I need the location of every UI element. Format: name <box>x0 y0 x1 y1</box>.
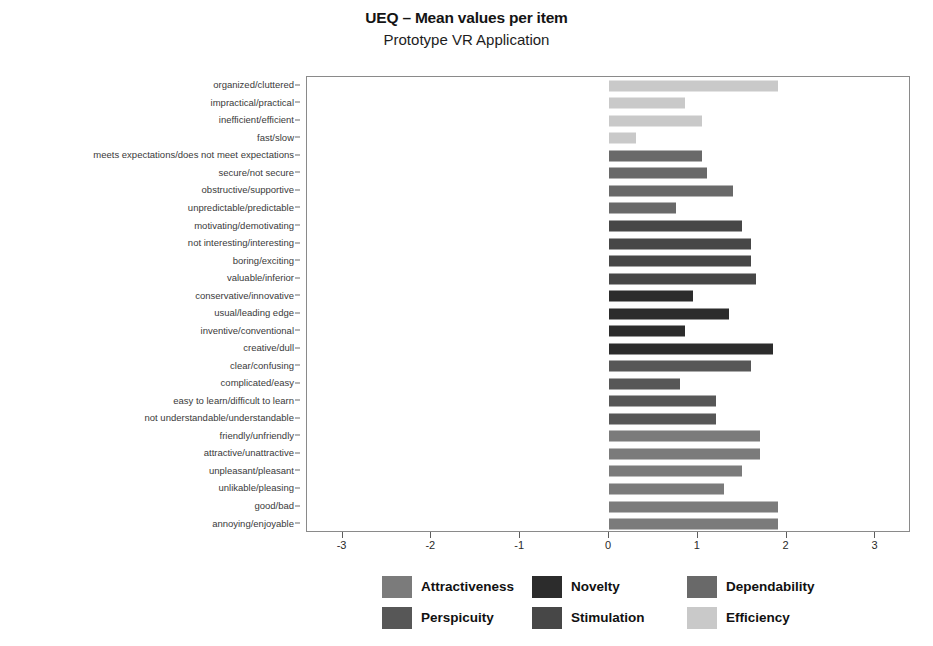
chart-subtitle: Prototype VR Application <box>0 29 933 50</box>
y-axis-label: boring/exciting <box>233 255 300 266</box>
plot-area <box>306 76 910 532</box>
bar-row <box>307 515 909 533</box>
legend-item[interactable]: Novelty <box>532 576 687 598</box>
bar <box>609 396 716 407</box>
bar <box>609 203 676 214</box>
chart-canvas: UEQ – Mean values per item Prototype VR … <box>0 0 933 646</box>
bar <box>609 326 685 337</box>
bar <box>609 483 724 494</box>
y-axis-label-row: not interesting/interesting <box>0 234 300 252</box>
y-axis-label: good/bad <box>254 500 300 511</box>
bar <box>609 413 716 424</box>
bar-row <box>307 445 909 463</box>
legend-color-swatch <box>382 576 412 598</box>
y-axis-label-row: unpredictable/predictable <box>0 199 300 217</box>
y-axis-label: obstructive/supportive <box>202 184 300 195</box>
bar-rows <box>307 77 909 531</box>
y-axis-label: meets expectations/does not meet expecta… <box>93 149 300 160</box>
y-axis-tick-mark <box>295 225 300 226</box>
bar <box>609 273 756 284</box>
y-axis-label-row: creative/dull <box>0 339 300 357</box>
y-axis-tick-mark <box>295 312 300 313</box>
y-axis-label-row: unlikable/pleasing <box>0 479 300 497</box>
y-axis-label: friendly/unfriendly <box>220 430 300 441</box>
y-axis-tick-mark <box>295 382 300 383</box>
bar-row <box>307 480 909 498</box>
y-axis-tick-mark <box>295 400 300 401</box>
y-axis-label-row: fast/slow <box>0 129 300 147</box>
bar <box>609 448 760 459</box>
y-axis-label: easy to learn/difficult to learn <box>173 395 300 406</box>
bar <box>609 256 751 267</box>
legend-item[interactable]: Attractiveness <box>382 576 532 598</box>
bar-row <box>307 200 909 218</box>
y-axis-label-row: attractive/unattractive <box>0 444 300 462</box>
bar-row <box>307 270 909 288</box>
y-axis-label-row: easy to learn/difficult to learn <box>0 392 300 410</box>
y-axis-tick-mark <box>295 207 300 208</box>
y-axis-label-row: good/bad <box>0 497 300 515</box>
y-axis-tick-mark <box>295 242 300 243</box>
y-axis-label: impractical/practical <box>211 97 300 108</box>
bar <box>609 308 729 319</box>
y-axis-tick-mark <box>295 505 300 506</box>
y-axis-label-row: obstructive/supportive <box>0 181 300 199</box>
bar-row <box>307 95 909 113</box>
bar-row <box>307 147 909 165</box>
bar-row <box>307 322 909 340</box>
bar <box>609 168 707 179</box>
x-axis: -3-2-10123 <box>306 532 910 566</box>
y-axis-tick-mark <box>295 365 300 366</box>
x-axis-tick-mark <box>874 532 875 538</box>
y-axis-tick-mark <box>295 260 300 261</box>
legend-item[interactable]: Efficiency <box>687 607 852 629</box>
x-axis-tick-label: 1 <box>694 539 700 551</box>
bar <box>609 115 702 126</box>
bar-row <box>307 217 909 235</box>
x-axis-tick-mark <box>430 532 431 538</box>
chart-legend: AttractivenessPerspicuityNoveltyStimulat… <box>382 571 852 633</box>
bar-row <box>307 428 909 446</box>
y-axis-tick-mark <box>295 137 300 138</box>
y-axis-label-row: conservative/innovative <box>0 286 300 304</box>
legend-label: Novelty <box>571 579 620 594</box>
bar <box>609 501 778 512</box>
x-axis-tick-mark <box>342 532 343 538</box>
bar-row <box>307 182 909 200</box>
y-axis-tick-mark <box>295 119 300 120</box>
y-axis-label: motivating/demotivating <box>194 220 300 231</box>
y-axis-label: unlikable/pleasing <box>218 482 300 493</box>
y-axis-label: attractive/unattractive <box>204 447 300 458</box>
y-axis-tick-mark <box>295 277 300 278</box>
y-axis-tick-mark <box>295 154 300 155</box>
y-axis-label-row: clear/confusing <box>0 357 300 375</box>
bar-row <box>307 410 909 428</box>
x-axis-tick-mark <box>697 532 698 538</box>
legend-item[interactable]: Dependability <box>687 576 852 598</box>
y-axis-label-row: valuable/inferior <box>0 269 300 287</box>
y-axis-tick-mark <box>295 84 300 85</box>
y-axis-label: not interesting/interesting <box>188 237 300 248</box>
legend-color-swatch <box>687 607 717 629</box>
bar <box>609 431 760 442</box>
legend-item[interactable]: Stimulation <box>532 607 687 629</box>
y-axis-label: complicated/easy <box>221 377 300 388</box>
bar <box>609 98 685 109</box>
y-axis-label-row: meets expectations/does not meet expecta… <box>0 146 300 164</box>
legend-item[interactable]: Perspicuity <box>382 607 532 629</box>
y-axis-label-row: not understandable/understandable <box>0 409 300 427</box>
bar-row <box>307 375 909 393</box>
bar <box>609 221 742 232</box>
bar <box>609 343 773 354</box>
y-axis-label-row: usual/leading edge <box>0 304 300 322</box>
y-axis-label: unpleasant/pleasant <box>209 465 300 476</box>
y-axis-tick-mark <box>295 347 300 348</box>
y-axis-label-row: boring/exciting <box>0 251 300 269</box>
legend-color-swatch <box>687 576 717 598</box>
chart-title: UEQ – Mean values per item <box>0 8 933 28</box>
x-axis-tick-label: -1 <box>514 539 524 551</box>
bar-row <box>307 165 909 183</box>
y-axis-tick-mark <box>295 172 300 173</box>
legend-label: Stimulation <box>571 610 645 625</box>
y-axis-label-row: impractical/practical <box>0 94 300 112</box>
